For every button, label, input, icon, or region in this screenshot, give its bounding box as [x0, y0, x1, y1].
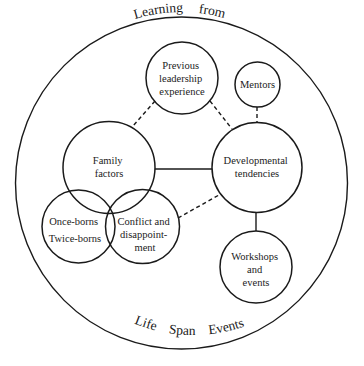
developmental-tendencies-label: Developmental tendencies [224, 155, 291, 179]
title-bottom-arc: Life Span Events [133, 312, 246, 338]
title-top-arc: Learning from [132, 0, 228, 22]
node-family-factors: Family factors [63, 122, 155, 214]
label-line: Previous [162, 60, 199, 71]
link-previous-to-family [133, 101, 155, 126]
label-line: experience [159, 86, 205, 97]
family-factors-label: Family factors [93, 155, 125, 179]
label-line: ment [135, 242, 156, 253]
node-workshops-events: Workshops and events [220, 231, 292, 303]
node-previous-leadership: Previous leadership experience [146, 42, 218, 114]
link-previous-to-developmental [210, 101, 232, 129]
title-top-text: Learning from [132, 0, 228, 22]
label-line: Workshops [231, 251, 278, 262]
label-line: events [243, 277, 270, 288]
title-bottom-text: Life Span Events [133, 312, 246, 338]
mentors-label: Mentors [240, 79, 275, 90]
label-line: leadership [159, 73, 202, 84]
label-line: factors [95, 168, 124, 179]
label-line: Once-borns [49, 216, 98, 227]
once-twice-borns-label: Once-borns Twice-borns [49, 216, 101, 244]
node-mentors: Mentors [235, 62, 280, 107]
label-line: disappoint- [120, 229, 168, 240]
label-line: Mentors [240, 79, 275, 90]
label-line: Developmental [224, 155, 288, 166]
label-line: Conflict and [118, 216, 171, 227]
link-conflict-to-developmental [178, 195, 219, 218]
label-line: Twice-borns [49, 233, 101, 244]
node-developmental-tendencies: Developmental tendencies [212, 123, 302, 213]
label-line: Family [93, 155, 124, 166]
node-conflict-disappointment: Conflict and disappoint- ment [106, 190, 180, 264]
label-line: and [247, 264, 263, 275]
conflict-disappointment-label: Conflict and disappoint- ment [118, 216, 173, 253]
workshops-events-label: Workshops and events [231, 251, 281, 288]
life-span-learning-diagram: Previous leadership experience Mentors F… [0, 0, 364, 366]
label-line: tendencies [235, 168, 279, 179]
previous-leadership-label: Previous leadership experience [159, 60, 205, 97]
